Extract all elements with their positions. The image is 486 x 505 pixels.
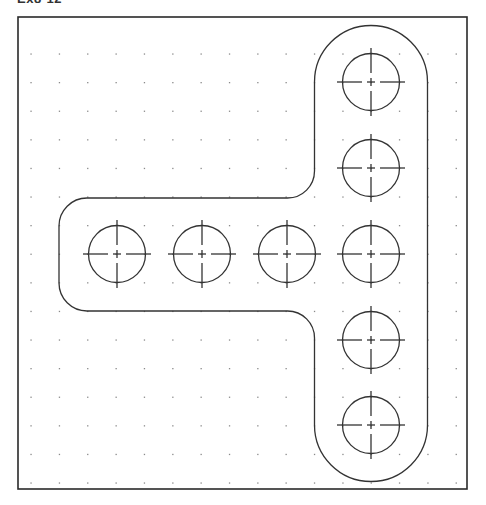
grid-dot [144,282,145,283]
grid-dot [286,82,287,83]
grid-dot [59,168,60,169]
grid-dot [30,139,31,140]
grid-dot [172,225,173,226]
grid-dot [87,282,88,283]
grid-dot [427,53,428,54]
grid-dot [59,196,60,197]
grid-dot [30,168,31,169]
grid-dot [342,368,343,369]
grid-dot [342,311,343,312]
grid-dot [144,53,145,54]
grid-dot [229,225,230,226]
grid-dot [229,82,230,83]
grid-dot [87,225,88,226]
grid-dot [286,339,287,340]
grid-dot [456,168,457,169]
grid-dot [456,82,457,83]
grid-dot [257,339,258,340]
grid-dot [286,53,287,54]
grid-dot [116,397,117,398]
grid-dot [456,368,457,369]
grid-dot [314,225,315,226]
grid-dot [456,53,457,54]
grid-dot [314,282,315,283]
grid-dot [30,339,31,340]
grid-dot [342,111,343,112]
grid-dot [59,311,60,312]
grid-dot [257,139,258,140]
grid-dot [30,82,31,83]
grid-dot [456,139,457,140]
grid-dot [427,454,428,455]
grid-dot [257,168,258,169]
grid-dot [87,139,88,140]
grid-dot [456,339,457,340]
grid-dot [257,82,258,83]
grid-dot [399,311,400,312]
grid-dot [87,454,88,455]
grid-dot [30,397,31,398]
grid-dot [229,397,230,398]
grid-dot [286,397,287,398]
grid-dot [286,111,287,112]
grid-dot [456,111,457,112]
grid-dot [201,397,202,398]
grid-dot [456,311,457,312]
grid-dot [399,454,400,455]
grid-dot [59,397,60,398]
grid-dot [257,482,258,483]
grid-dot [116,482,117,483]
grid-dot [257,282,258,283]
grid-dot [116,368,117,369]
grid-dot [172,454,173,455]
grid-dot [172,282,173,283]
grid-dot [286,482,287,483]
grid-dot [201,168,202,169]
grid-dot [286,368,287,369]
grid-dot [399,397,400,398]
grid-dot [30,254,31,255]
grid-dot [144,139,145,140]
grid-dot [59,111,60,112]
grid-dot [144,397,145,398]
grid-dot [30,53,31,54]
grid-dot [342,196,343,197]
grid-dot [116,454,117,455]
grid-dot [172,425,173,426]
grid-dot [59,425,60,426]
grid-dot [201,111,202,112]
grid-dot [87,53,88,54]
grid-dot [116,139,117,140]
grid-dot [456,196,457,197]
grid-dot [144,111,145,112]
grid-dot [144,368,145,369]
grid-dot [257,425,258,426]
grid-dot [456,254,457,255]
grid-dot [257,111,258,112]
grid-dot [399,368,400,369]
grid-dot [229,168,230,169]
grid-dot [229,53,230,54]
grid-dot [456,397,457,398]
grid-dot [257,225,258,226]
grid-dot [30,311,31,312]
grid-dot [116,425,117,426]
grid-dot [371,482,372,483]
grid-dot [172,339,173,340]
grid-dot [201,139,202,140]
grid-dot [87,368,88,369]
grid-dot [30,196,31,197]
grid-dot [59,368,60,369]
grid-dot [229,425,230,426]
grid-dot [456,225,457,226]
grid-dot [144,339,145,340]
grid-dot [30,482,31,483]
grid-dot [144,82,145,83]
grid-dot [342,397,343,398]
grid-dot [172,368,173,369]
grid-dot [172,482,173,483]
grid-dot [201,82,202,83]
grid-dot [229,339,230,340]
grid-dot [342,482,343,483]
grid-dot [87,397,88,398]
